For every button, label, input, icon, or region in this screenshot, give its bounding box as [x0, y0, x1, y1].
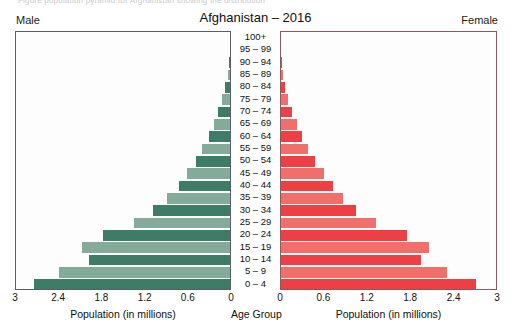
bar-row: [281, 57, 496, 69]
bar-male-19: [59, 267, 230, 278]
age-group-label: 25 – 29: [231, 216, 280, 228]
bar-female-4: [281, 82, 285, 93]
bar-row: [16, 180, 230, 192]
bar-row: [281, 217, 496, 229]
bar-female-17: [281, 242, 429, 253]
bar-row: [281, 229, 496, 241]
bar-female-5: [281, 94, 288, 105]
bar-row: [281, 32, 496, 44]
bar-row: [281, 118, 496, 130]
legend-label-female: Female: [461, 14, 498, 26]
bar-male-15: [134, 218, 230, 229]
age-group-label: 0 – 4: [231, 278, 280, 290]
bar-male-18: [89, 255, 230, 266]
bar-male-20: [34, 279, 230, 290]
bar-male-3: [228, 70, 230, 81]
bar-female-6: [281, 107, 292, 118]
bar-female-10: [281, 156, 315, 167]
axis-tick: 2.4: [447, 292, 461, 303]
axis-tick: 1.8: [403, 292, 417, 303]
bar-row: [281, 254, 496, 266]
bar-row: [281, 131, 496, 143]
age-group-label: 80 – 84: [231, 80, 280, 92]
bar-female-14: [281, 205, 356, 216]
bar-row: [16, 118, 230, 130]
bar-female-18: [281, 255, 421, 266]
bar-male-10: [196, 156, 230, 167]
axis-tick: 3: [494, 292, 500, 303]
age-group-label: 70 – 74: [231, 105, 280, 117]
male-axis-title: Population (in millions): [15, 308, 231, 320]
female-bar-rows: [281, 32, 496, 289]
age-group-label: 10 – 14: [231, 253, 280, 265]
bar-male-5: [222, 94, 230, 105]
age-group-label: 90 – 94: [231, 56, 280, 68]
age-group-label: 15 – 19: [231, 241, 280, 253]
bar-male-11: [187, 168, 230, 179]
bar-row: [16, 279, 230, 290]
age-group-label: 100+: [231, 31, 280, 43]
bar-row: [281, 94, 496, 106]
age-group-label: 50 – 54: [231, 154, 280, 166]
age-group-label: 30 – 34: [231, 204, 280, 216]
bar-row: [281, 192, 496, 204]
bar-female-7: [281, 119, 297, 130]
axis-tick: 1.2: [138, 292, 152, 303]
axis-tick: 0.6: [316, 292, 330, 303]
bar-row: [281, 266, 496, 278]
bar-male-8: [209, 131, 230, 142]
population-pyramid-page: Figure population pyramid for Afghanista…: [0, 0, 511, 331]
age-group-label: 65 – 69: [231, 117, 280, 129]
bar-row: [281, 44, 496, 56]
bar-female-15: [281, 218, 376, 229]
bar-male-6: [218, 107, 230, 118]
bar-row: [281, 155, 496, 167]
axis-tick: 0.6: [181, 292, 195, 303]
bar-row: [16, 131, 230, 143]
bar-row: [281, 205, 496, 217]
bar-row: [281, 69, 496, 81]
bar-row: [16, 69, 230, 81]
center-axis-title: Age Group: [231, 308, 280, 320]
age-group-label: 85 – 89: [231, 68, 280, 80]
bar-row: [281, 180, 496, 192]
bar-row: [16, 242, 230, 254]
age-group-label: 40 – 44: [231, 179, 280, 191]
male-bar-rows: [16, 32, 230, 289]
bar-row: [16, 205, 230, 217]
female-axis-title: Population (in millions): [280, 308, 497, 320]
bar-male-17: [82, 242, 230, 253]
bar-row: [16, 155, 230, 167]
age-group-label: 45 – 49: [231, 167, 280, 179]
bar-female-8: [281, 131, 302, 142]
bar-female-19: [281, 267, 447, 278]
bar-male-14: [153, 205, 230, 216]
page-bleed-caption: Figure population pyramid for Afghanista…: [18, 0, 438, 6]
bar-row: [16, 266, 230, 278]
bar-row: [16, 94, 230, 106]
age-group-label: 5 – 9: [231, 265, 280, 277]
bar-male-13: [167, 193, 230, 204]
bar-row: [16, 44, 230, 56]
bar-row: [16, 168, 230, 180]
axis-tick: 1.2: [360, 292, 374, 303]
female-x-axis: 00.61.21.82.43: [280, 292, 497, 306]
bar-female-9: [281, 144, 308, 155]
bar-male-12: [179, 181, 230, 192]
bar-female-16: [281, 230, 407, 241]
male-x-axis: 32.41.81.20.60: [15, 292, 231, 306]
age-group-label: 75 – 79: [231, 93, 280, 105]
axis-tick: 2.4: [51, 292, 65, 303]
bar-male-4: [225, 82, 230, 93]
age-group-label: 95 – 99: [231, 43, 280, 55]
axis-tick: 1.8: [94, 292, 108, 303]
bar-female-3: [281, 70, 283, 81]
bar-row: [16, 106, 230, 118]
axis-tick: 3: [12, 292, 18, 303]
bar-row: [281, 242, 496, 254]
bar-row: [281, 168, 496, 180]
bar-male-16: [103, 230, 230, 241]
bar-row: [16, 254, 230, 266]
bar-female-2: [281, 57, 282, 68]
bar-row: [281, 81, 496, 93]
